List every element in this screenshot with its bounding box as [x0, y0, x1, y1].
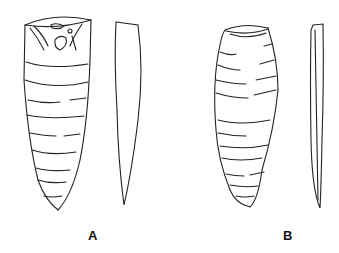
artifact-a-side [115, 22, 141, 205]
panel-label-b: B [283, 228, 292, 243]
artifact-b-side [311, 24, 324, 208]
artifact-b-front [215, 25, 278, 207]
figure-drawing [0, 0, 339, 253]
panel-label-a: A [88, 228, 97, 243]
artifact-a-front [24, 17, 91, 210]
